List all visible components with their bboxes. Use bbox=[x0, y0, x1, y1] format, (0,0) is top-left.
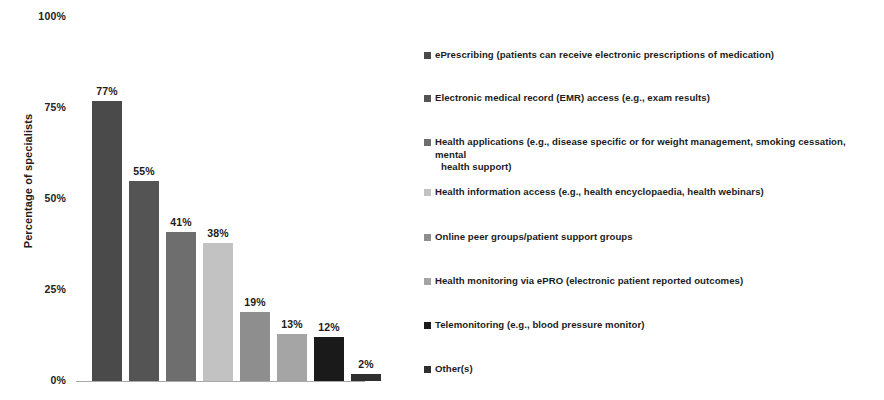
legend-label-line2: health support) bbox=[435, 161, 879, 174]
bar-group[interactable]: 2% bbox=[351, 374, 381, 381]
bar[interactable] bbox=[351, 374, 381, 381]
legend-swatch-icon bbox=[424, 322, 431, 329]
bar[interactable] bbox=[277, 334, 307, 381]
bar[interactable] bbox=[129, 181, 159, 381]
bar-chart-figure: Percentage of specialists 100%75%50%25%0… bbox=[0, 0, 884, 400]
plot-area: Percentage of specialists 100%75%50%25%0… bbox=[0, 0, 400, 400]
legend-item[interactable]: Health information access (e.g., health … bbox=[424, 186, 879, 199]
bar-group[interactable]: 77% bbox=[92, 101, 122, 381]
bar-group[interactable]: 38% bbox=[203, 243, 233, 381]
bar[interactable] bbox=[203, 243, 233, 381]
bar-value-label: 19% bbox=[231, 296, 279, 308]
legend-swatch-icon bbox=[424, 52, 431, 59]
legend-item[interactable]: Electronic medical record (EMR) access (… bbox=[424, 92, 879, 105]
legend-item[interactable]: Health applications (e.g., disease speci… bbox=[424, 136, 879, 174]
legend-swatch-icon bbox=[424, 234, 431, 241]
bar-value-label: 38% bbox=[194, 227, 242, 239]
bar[interactable] bbox=[166, 232, 196, 381]
legend-label: Health monitoring via ePRO (electronic p… bbox=[435, 275, 743, 288]
legend-swatch-icon bbox=[424, 95, 431, 102]
legend-label: Online peer groups/patient support group… bbox=[435, 231, 633, 244]
legend-label: ePrescribing (patients can receive elect… bbox=[435, 49, 774, 62]
bar-series: 77%55%41%38%19%13%12%2% bbox=[0, 0, 400, 400]
legend-swatch-icon bbox=[424, 278, 431, 285]
legend-label: Health applications (e.g., disease speci… bbox=[435, 136, 879, 174]
legend-item[interactable]: ePrescribing (patients can receive elect… bbox=[424, 49, 879, 62]
bar-group[interactable]: 13% bbox=[277, 334, 307, 381]
legend-swatch-icon bbox=[424, 366, 431, 373]
bar-group[interactable]: 19% bbox=[240, 312, 270, 381]
bar[interactable] bbox=[314, 337, 344, 381]
bar-group[interactable]: 12% bbox=[314, 337, 344, 381]
legend-label: Health information access (e.g., health … bbox=[435, 186, 764, 199]
legend-item[interactable]: Other(s) bbox=[424, 363, 879, 376]
legend-swatch-icon bbox=[424, 189, 431, 196]
bar-value-label: 77% bbox=[83, 85, 131, 97]
bar-value-label: 2% bbox=[342, 358, 390, 370]
legend-label: Other(s) bbox=[435, 363, 473, 376]
bar-group[interactable]: 41% bbox=[166, 232, 196, 381]
bar-value-label: 12% bbox=[305, 321, 353, 333]
bar[interactable] bbox=[92, 101, 122, 381]
legend-swatch-icon bbox=[424, 139, 431, 146]
legend-label: Electronic medical record (EMR) access (… bbox=[435, 92, 710, 105]
bar-value-label: 55% bbox=[120, 165, 168, 177]
legend-item[interactable]: Telemonitoring (e.g., blood pressure mon… bbox=[424, 319, 879, 332]
bar[interactable] bbox=[240, 312, 270, 381]
legend-label: Telemonitoring (e.g., blood pressure mon… bbox=[435, 319, 644, 332]
chart-legend: ePrescribing (patients can receive elect… bbox=[424, 0, 884, 400]
legend-item[interactable]: Health monitoring via ePRO (electronic p… bbox=[424, 275, 879, 288]
bar-group[interactable]: 55% bbox=[129, 181, 159, 381]
legend-item[interactable]: Online peer groups/patient support group… bbox=[424, 231, 879, 244]
